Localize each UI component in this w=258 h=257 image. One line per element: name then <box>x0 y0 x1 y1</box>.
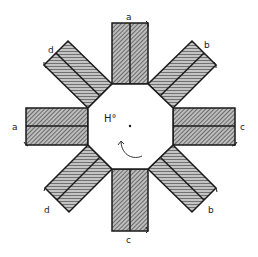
label-bottom-left: d <box>44 205 50 215</box>
label-top: a <box>126 12 132 22</box>
label-top-left: d <box>48 45 54 55</box>
arm-top <box>112 21 148 84</box>
label-right: c <box>240 122 245 132</box>
center-label: H° <box>104 113 117 124</box>
center-point <box>129 125 131 127</box>
label-bottom-right: b <box>208 205 214 215</box>
label-top-right: b <box>204 40 210 50</box>
label-left: a <box>12 122 18 132</box>
arm-bottom <box>112 169 148 233</box>
octagon-diagram: H° a b c b c d a d <box>0 0 258 257</box>
arm-right <box>173 108 237 146</box>
label-bottom: c <box>126 235 131 245</box>
arm-left <box>24 108 88 146</box>
